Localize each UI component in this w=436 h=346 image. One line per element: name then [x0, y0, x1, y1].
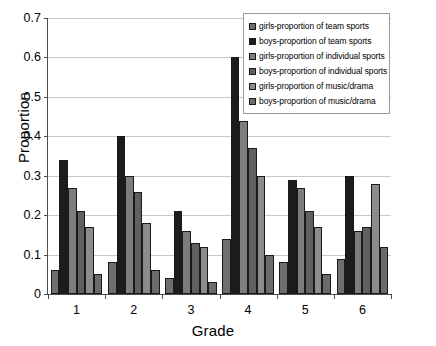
bar	[297, 188, 306, 294]
bar	[305, 211, 314, 294]
y-tick-label: 0.2	[24, 209, 41, 222]
x-tick-mark	[162, 294, 163, 299]
x-tick-label-5: 5	[302, 303, 309, 317]
legend-swatch-icon	[249, 98, 256, 105]
y-tick-mark	[44, 18, 48, 19]
legend-swatch-icon	[249, 23, 256, 30]
x-tick-mark	[391, 294, 392, 299]
bar	[142, 223, 151, 294]
bar	[165, 278, 174, 294]
legend-swatch-icon	[249, 68, 256, 75]
y-tick-mark	[44, 255, 48, 256]
legend-item-3: boys-proportion of individual sports	[249, 64, 384, 79]
bar	[51, 270, 60, 294]
legend-label: boys-proportion of music/drama	[259, 97, 376, 106]
legend-label: girls-proportion of individual sports	[259, 52, 385, 61]
x-axis-title: Grade	[36, 322, 390, 339]
bar	[257, 176, 266, 294]
bar	[85, 227, 94, 294]
y-tick-mark	[44, 176, 48, 177]
bar	[288, 180, 297, 294]
bar-group-grade-1	[51, 18, 103, 294]
bar	[134, 192, 143, 295]
x-tick-label-1: 1	[73, 303, 80, 317]
bar-group-grade-3	[165, 18, 217, 294]
bar	[371, 184, 380, 294]
legend-item-2: girls-proportion of individual sports	[249, 49, 384, 64]
bar	[222, 239, 231, 294]
y-tick-mark	[44, 97, 48, 98]
legend: girls-proportion of team sportsboys-prop…	[243, 13, 390, 114]
legend-item-4: girls-proportion of music/drama	[249, 79, 384, 94]
x-tick-mark	[105, 294, 106, 299]
y-tick-label: 0	[34, 288, 41, 301]
bar	[151, 270, 160, 294]
y-tick-label: 0.7	[24, 12, 41, 25]
legend-swatch-icon	[249, 53, 256, 60]
y-tick-mark	[44, 136, 48, 137]
legend-item-5: boys-proportion of music/drama	[249, 94, 384, 109]
y-tick-label: 0.6	[24, 51, 41, 64]
bar	[68, 188, 77, 294]
bar	[231, 57, 240, 294]
bar	[191, 243, 200, 294]
legend-label: boys-proportion of team sports	[259, 37, 371, 46]
bar	[380, 247, 389, 294]
y-tick-label: 0.3	[24, 169, 41, 182]
y-tick-label: 0.4	[24, 130, 41, 143]
bar	[77, 211, 86, 294]
y-tick-label: 0.5	[24, 91, 41, 104]
y-tick-mark	[44, 57, 48, 58]
legend-label: boys-proportion of individual sports	[259, 67, 387, 76]
y-tick-label: 0.1	[24, 248, 41, 261]
x-tick-label-6: 6	[359, 303, 366, 317]
bar	[337, 259, 346, 294]
bar	[117, 136, 126, 294]
bar	[322, 274, 331, 294]
bar	[125, 176, 134, 294]
legend-item-1: boys-proportion of team sports	[249, 34, 384, 49]
bar-chart: Proportion 00.10.20.30.40.50.60.7 123456…	[0, 0, 436, 346]
x-tick-label-4: 4	[245, 303, 252, 317]
legend-label: girls-proportion of music/drama	[259, 82, 373, 91]
bar	[362, 227, 371, 294]
bar	[200, 247, 209, 294]
bar	[59, 160, 68, 294]
x-tick-mark	[220, 294, 221, 299]
bar	[248, 148, 257, 294]
bar	[108, 262, 117, 294]
x-tick-label-3: 3	[187, 303, 194, 317]
bar	[182, 231, 191, 294]
legend-label: girls-proportion of team sports	[259, 22, 369, 31]
x-tick-mark	[277, 294, 278, 299]
x-tick-label-2: 2	[130, 303, 137, 317]
bar	[314, 227, 323, 294]
bar	[208, 282, 217, 294]
legend-item-0: girls-proportion of team sports	[249, 19, 384, 34]
bar	[239, 121, 248, 294]
bar	[354, 231, 363, 294]
y-tick-mark	[44, 215, 48, 216]
x-tick-mark	[334, 294, 335, 299]
bar	[94, 274, 103, 294]
x-tick-mark	[48, 294, 49, 299]
bar	[265, 255, 274, 294]
legend-swatch-icon	[249, 83, 256, 90]
bar	[174, 211, 183, 294]
bar-group-grade-2	[108, 18, 160, 294]
bar	[345, 176, 354, 294]
bar	[279, 262, 288, 294]
legend-swatch-icon	[249, 38, 256, 45]
